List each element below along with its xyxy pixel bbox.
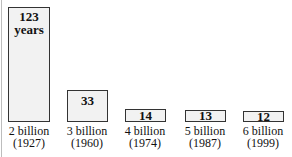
category-year: (1960)	[57, 137, 117, 149]
bar-3-billion: 33	[67, 90, 108, 122]
population-milestone-chart: 123 years 2 billion (1927) 33 3 billion …	[0, 0, 292, 157]
category-year: (1999)	[233, 137, 292, 149]
category-year: (1927)	[0, 137, 59, 149]
category-year: (1974)	[115, 137, 175, 149]
bar-value: 14	[126, 110, 165, 122]
bar-2-billion: 123 years	[8, 7, 50, 122]
bar-value: 13	[186, 110, 225, 122]
bar-unit: years	[9, 24, 49, 36]
bar-value: 12	[244, 111, 283, 123]
bar-4-billion: 14	[125, 109, 166, 122]
bar-value: 33	[68, 95, 107, 107]
bar-5-billion: 13	[185, 110, 226, 122]
bar-6-billion: 12	[243, 111, 284, 122]
category-year: (1987)	[175, 137, 235, 149]
